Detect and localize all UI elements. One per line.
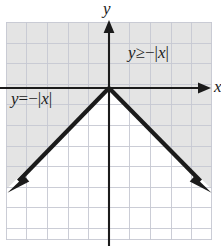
inequality-relation: ≥ [136,43,145,62]
inequality-label: y≥−|x| [128,44,169,61]
graph-figure: y≥−|x| y=−|x| y x [0,0,221,247]
equation-relation: = [19,89,29,108]
inequality-lhs: y [128,43,136,62]
x-axis-label: x [214,78,221,95]
inequality-bar-close: | [165,43,168,62]
equation-bar-close: | [49,89,52,108]
coordinate-plane-svg [0,0,221,247]
y-axis-label: y [103,0,111,17]
equation-rhs-var: x [41,89,49,108]
equation-lhs: y [11,89,19,108]
equation-label: y=−|x| [11,90,52,107]
equation-rhs-sign: − [28,89,38,108]
